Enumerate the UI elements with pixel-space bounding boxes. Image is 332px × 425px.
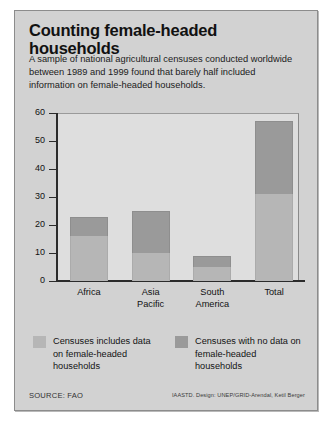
y-tick-label: 60 <box>35 107 45 117</box>
y-tick-mark <box>49 225 57 226</box>
bar-segment-included <box>255 194 293 281</box>
chart-footer: SOURCE: FAO IAASTD. Design: UNEP/GRID-Ar… <box>29 391 305 405</box>
bar-africa[interactable] <box>70 217 108 281</box>
legend-label-no-data: Censuses with no data on female-headed h… <box>195 335 305 373</box>
category-label-total: Total <box>242 287 306 299</box>
legend-label-included: Censuses includes data on female-headed … <box>53 335 163 373</box>
y-tick-label: 40 <box>35 163 45 173</box>
stacked-bar-chart: 0102030405060 AfricaAsiaPacificSouthAmer… <box>29 107 305 307</box>
y-tick-10: 10 <box>49 253 57 254</box>
category-label-asia-pacific: AsiaPacific <box>119 287 183 310</box>
y-tick-50: 50 <box>49 141 57 142</box>
bar-segment-no-data <box>193 256 231 267</box>
bar-total[interactable] <box>255 121 293 281</box>
y-tick-mark <box>49 253 57 254</box>
chart-legend: Censuses includes data on female-headed … <box>33 335 305 381</box>
y-tick-mark <box>49 169 57 170</box>
y-tick-mark <box>49 281 57 282</box>
y-tick-label: 30 <box>35 191 45 201</box>
category-label-africa: Africa <box>57 287 121 299</box>
legend-swatch-included-icon <box>33 336 46 348</box>
y-tick-mark <box>49 197 57 198</box>
infographic-panel: Counting female-headed households A samp… <box>14 10 318 411</box>
y-tick-label: 10 <box>35 247 45 257</box>
category-label-south-america: SouthAmerica <box>180 287 244 310</box>
bar-asia-pacific[interactable] <box>132 211 170 281</box>
x-axis-category-labels: AfricaAsiaPacificSouthAmericaTotal <box>58 287 305 315</box>
bar-segment-included <box>193 267 231 281</box>
credit-note: IAASTD. Design: UNEP/GRID-Arendal, Ketil… <box>172 392 305 398</box>
bar-segment-no-data <box>132 211 170 253</box>
y-tick-20: 20 <box>49 225 57 226</box>
y-tick-60: 60 <box>49 113 57 114</box>
page-subtitle: A sample of national agricultural census… <box>29 53 301 93</box>
y-tick-label: 0 <box>40 275 45 285</box>
y-tick-mark <box>49 113 57 114</box>
bar-group <box>58 113 305 281</box>
legend-swatch-no-data-icon <box>175 336 188 348</box>
bar-south-america[interactable] <box>193 256 231 281</box>
bar-segment-included <box>70 236 108 281</box>
y-tick-label: 20 <box>35 219 45 229</box>
bar-segment-no-data <box>70 217 108 237</box>
y-tick-40: 40 <box>49 169 57 170</box>
legend-item-no-data: Censuses with no data on female-headed h… <box>175 335 305 373</box>
bar-segment-no-data <box>255 121 293 194</box>
bar-segment-included <box>132 253 170 281</box>
y-tick-0: 0 <box>49 281 57 282</box>
legend-item-included: Censuses includes data on female-headed … <box>33 335 163 373</box>
source-note: SOURCE: FAO <box>29 391 83 400</box>
page-title: Counting female-headed households <box>29 21 307 57</box>
y-tick-30: 30 <box>49 197 57 198</box>
y-tick-mark <box>49 141 57 142</box>
y-tick-label: 50 <box>35 135 45 145</box>
